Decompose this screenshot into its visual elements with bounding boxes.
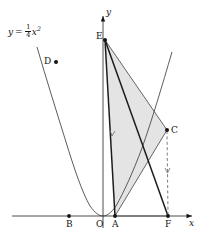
y-axis-arrowhead [101,16,105,22]
equation-denominator: 4 [25,31,31,39]
point-label-d: D [44,57,51,66]
point-label-e: E [96,32,103,41]
point-b-dot [67,214,71,218]
equation-equals: = [13,27,25,37]
point-c-dot [165,128,169,132]
equation-exponent: 2 [37,25,41,32]
equation-numerator: 1 [25,24,31,31]
equation-fraction: 14 [25,24,31,39]
y-axis-label: y [106,8,111,17]
origin-label: O [96,220,103,229]
equation-label: y=14x2 [8,24,41,39]
point-f-dot [166,214,170,218]
point-label-f: F [165,220,171,229]
point-label-a: A [112,220,119,229]
point-d-dot [54,60,58,64]
x-axis-label: x [189,219,194,228]
point-a-dot [113,214,117,218]
point-label-b: B [66,220,73,229]
point-e-dot [103,38,107,42]
parabola-figure: y=14x2 x y E C D B O A F [0,0,208,245]
point-label-c: C [171,126,178,135]
